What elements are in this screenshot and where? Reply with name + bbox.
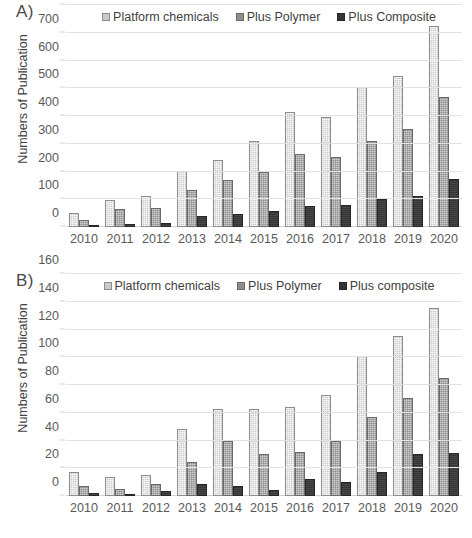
- panel-a-gridline: [66, 60, 462, 61]
- panel-b-y-tick-label: 40: [45, 420, 59, 434]
- panel-b-bar: [69, 472, 79, 496]
- panel-a-bar: [187, 190, 197, 227]
- panel-b-x-tick-label: 2015: [246, 501, 282, 515]
- panel-b-bar-group: [210, 274, 246, 496]
- panel-a-bar: [259, 172, 269, 227]
- panel-b-y-tick-mark: [60, 356, 65, 357]
- panel-a-y-axis-title: Numbers of Publication: [16, 14, 30, 184]
- panel-a-bar-groups: [66, 5, 462, 227]
- panel-a-bar-group: [318, 5, 354, 227]
- panel-b-bar: [321, 395, 331, 496]
- panel-b-bar: [161, 491, 171, 496]
- panel-a-gridline: [66, 4, 462, 5]
- panel-a-y-tick-label: 100: [38, 178, 59, 192]
- panel-b-gridline: [66, 412, 462, 413]
- panel-b-bar-group: [354, 274, 390, 496]
- panel-b-gridline: [66, 467, 462, 468]
- panel-b-bar: [259, 454, 269, 496]
- panel-a-x-tick-label: 2010: [66, 232, 102, 246]
- panel-b-bar: [213, 409, 223, 496]
- panel-a-bar: [439, 97, 449, 227]
- panel-b-y-tick-mark: [60, 411, 65, 412]
- panel-b-y-tick-label: 140: [38, 281, 59, 295]
- panel-b-gridline: [66, 356, 462, 357]
- panel-b-bar-group: [66, 274, 102, 496]
- panel-a-bar: [305, 206, 315, 227]
- panel-b-x-tick-label: 2018: [354, 501, 390, 515]
- panel-a-bar: [393, 76, 403, 227]
- panel-a-bar: [125, 224, 135, 227]
- panel-a-bar: [105, 200, 115, 227]
- panel-a-bar: [449, 179, 459, 227]
- panel-a-x-tick-label: 2014: [210, 232, 246, 246]
- panel-b-bar: [233, 486, 243, 496]
- panel-b-bar: [125, 494, 135, 496]
- panel-a-x-tick-label: 2011: [102, 232, 138, 246]
- panel-a-bar: [161, 223, 171, 227]
- panel-b-y-tick-mark: [60, 328, 65, 329]
- panel-a-bar: [233, 214, 243, 227]
- panel-a-y-tick-mark: [60, 226, 65, 227]
- panel-a-bar-group: [246, 5, 282, 227]
- panel-a-y-tick-mark: [60, 87, 65, 88]
- panel-b-y-axis-title: Numbers of Publication: [16, 283, 30, 453]
- panel-a: A) Numbers of Publication 01002003004005…: [0, 0, 472, 269]
- panel-a-y-tick-mark: [60, 198, 65, 199]
- panel-a-bar: [341, 205, 351, 227]
- panel-b-y-tick-mark: [60, 300, 65, 301]
- panel-b-bar: [79, 486, 89, 496]
- panel-b: B) Numbers of Publication 02040608010012…: [0, 269, 472, 538]
- panel-b-y-tick-label: 20: [45, 447, 59, 461]
- panel-a-y-tick-mark: [60, 59, 65, 60]
- panel-a-gridline: [66, 32, 462, 33]
- panel-b-bar: [413, 454, 423, 496]
- panel-b-bar: [223, 441, 233, 496]
- panel-b-bar: [295, 452, 305, 496]
- panel-b-x-tick-label: 2013: [174, 501, 210, 515]
- panel-b-x-tick-label: 2010: [66, 501, 102, 515]
- panel-a-bar: [141, 196, 151, 227]
- panel-a-y-tick-label: 500: [38, 67, 59, 81]
- panel-a-bar: [377, 199, 387, 227]
- panel-b-bar-group: [138, 274, 174, 496]
- panel-a-y-tick-label: 200: [38, 151, 59, 165]
- panel-b-y-tick-label: 0: [52, 475, 59, 489]
- panel-a-bar: [69, 213, 79, 227]
- panel-b-x-tick-label: 2019: [390, 501, 426, 515]
- panel-a-y-tick-label: 0: [52, 206, 59, 220]
- panel-a-y-tick-label: 300: [38, 123, 59, 137]
- panel-a-y-tick-mark: [60, 4, 65, 5]
- panel-b-bar: [249, 409, 259, 496]
- panel-a-x-tick-label: 2017: [318, 232, 354, 246]
- panel-a-x-tick-label: 2018: [354, 232, 390, 246]
- panel-a-bar-group: [390, 5, 426, 227]
- panel-a-bar-group: [282, 5, 318, 227]
- panel-b-gridline: [66, 301, 462, 302]
- panel-a-bar: [331, 157, 341, 227]
- panel-a-x-tick-label: 2019: [390, 232, 426, 246]
- panel-a-bar: [249, 141, 259, 227]
- panel-b-bar-group: [174, 274, 210, 496]
- panel-b-bar: [89, 493, 99, 496]
- panel-a-bar: [295, 154, 305, 227]
- panel-a-bar: [429, 26, 439, 227]
- panel-a-y-tick-label: 400: [38, 95, 59, 109]
- panel-b-bar-groups: [66, 274, 462, 496]
- panel-a-bar: [367, 141, 377, 227]
- panel-a-x-tick-label: 2020: [426, 232, 462, 246]
- panel-a-y-tick-mark: [60, 142, 65, 143]
- panel-b-gridline: [66, 329, 462, 330]
- panel-a-bar: [151, 208, 161, 227]
- panel-b-bar: [305, 479, 315, 496]
- panel-b-y-tick-label: 60: [45, 392, 59, 406]
- panel-b-x-tick-label: 2016: [282, 501, 318, 515]
- panel-a-x-axis-labels: 2010201120122013201420152016201720182019…: [66, 232, 462, 246]
- panel-b-bar: [151, 484, 161, 496]
- panel-a-gridline: [66, 171, 462, 172]
- panel-b-y-tick-label: 80: [45, 364, 59, 378]
- panel-b-x-axis-labels: 2010201120122013201420152016201720182019…: [66, 501, 462, 515]
- panel-b-x-tick-label: 2012: [138, 501, 174, 515]
- panel-a-bar: [413, 196, 423, 227]
- panel-a-bar: [115, 209, 125, 227]
- panel-b-bar-group: [282, 274, 318, 496]
